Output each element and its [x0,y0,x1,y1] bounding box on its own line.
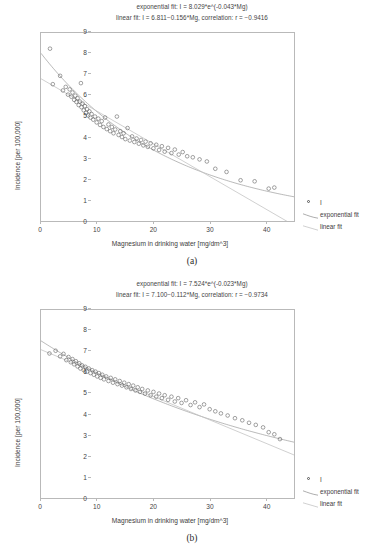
data-point [177,153,181,157]
data-point [111,381,115,385]
data-point [163,393,167,397]
y-tick-label: 9 [61,305,87,312]
data-point [139,138,143,142]
x-tick-mark [40,221,41,224]
linear-line-icon [303,502,318,508]
data-point [160,144,164,148]
exponential-line-icon [303,490,318,496]
y-tick-label: 6 [61,91,87,98]
y-tick-mark [88,179,91,180]
data-point [191,155,195,159]
x-tick-mark [153,221,154,224]
x-tick-mark [153,498,154,501]
y-tick-label: 2 [61,453,87,460]
y-tick-label: 8 [61,49,87,56]
legend-label-linear-fit: linear fit [320,500,342,507]
chart-b-y-axis-label: Incidence [per 100,000] [14,398,21,467]
figure-a: exponential fit: I = 8.029*e^(-0.043*Mg)… [0,0,384,277]
x-tick-label: 30 [195,226,225,233]
circle-marker-icon [307,477,310,480]
y-tick-mark [88,329,91,330]
x-tick-label: 10 [82,226,112,233]
data-point [105,127,109,131]
data-point [254,423,258,427]
data-point [184,398,188,402]
data-point [100,119,104,123]
legend-label-exponential-fit: exponential fit [320,211,359,218]
data-point [132,140,136,144]
data-point [226,414,230,418]
data-point [189,403,193,407]
y-tick-mark [88,392,91,393]
data-point [152,390,156,394]
data-point [247,421,251,425]
x-tick-label: 20 [138,226,168,233]
chart-b-plot-area [40,309,295,499]
y-tick-mark [88,73,91,74]
data-point [115,115,119,119]
chart-a-title-exponential: exponential fit: I = 8.029*e^(-0.043*Mg) [0,2,384,13]
y-tick-mark [88,31,91,32]
y-tick-mark [88,52,91,53]
y-tick-mark [88,308,91,309]
y-tick-label: 1 [61,197,87,204]
exponential-line-icon [303,213,318,219]
data-point [108,129,112,133]
y-tick-mark [88,158,91,159]
data-point [113,128,117,132]
data-point [198,405,202,409]
data-point [272,186,276,190]
figure-a-caption: (a) [0,256,384,266]
figure-b: exponential fit: I = 7.524*e^(-0.023*Mg)… [0,277,384,554]
y-tick-mark [88,94,91,95]
y-tick-label: 7 [61,70,87,77]
data-point [157,148,161,152]
data-point [180,401,184,405]
data-point [117,133,121,137]
data-point [107,123,111,127]
data-point [166,398,170,402]
y-tick-label: 8 [61,326,87,333]
linear-line-icon [303,225,318,231]
chart-a-canvas [41,33,294,221]
data-point [225,170,229,174]
legend-label-incidence: I [320,476,322,483]
data-point [137,142,141,146]
y-tick-label: 5 [61,112,87,119]
data-point [144,140,148,144]
y-tick-label: 9 [61,28,87,35]
y-tick-mark [88,498,91,499]
data-point [219,412,223,416]
data-point [176,396,180,400]
y-tick-mark [88,371,91,372]
x-tick-mark [266,221,267,224]
y-tick-mark [88,221,91,222]
data-point [157,392,161,396]
y-tick-label: 7 [61,347,87,354]
y-tick-mark [88,456,91,457]
x-tick-label: 0 [25,503,55,510]
x-tick-mark [40,498,41,501]
data-point [120,135,124,139]
y-tick-label: 3 [61,432,87,439]
x-tick-mark [266,498,267,501]
legend-label-linear-fit: linear fit [320,223,342,230]
y-tick-mark [88,414,91,415]
data-point [173,400,177,404]
data-point [72,98,76,102]
legend-label-incidence: I [320,199,322,206]
chart-a-title-linear: linear fit: I = 6.811−0.156*Mg, correlat… [0,13,384,24]
data-point [193,400,197,404]
data-point [112,131,116,135]
data-point [185,154,189,158]
data-point [135,137,139,141]
figure-b-caption: (b) [0,533,384,543]
x-tick-mark [210,498,211,501]
data-point [233,416,237,420]
data-point [102,125,106,129]
data-point [85,107,89,111]
data-point [160,396,164,400]
data-point [152,146,156,150]
data-point [110,125,114,129]
data-point [64,85,68,89]
